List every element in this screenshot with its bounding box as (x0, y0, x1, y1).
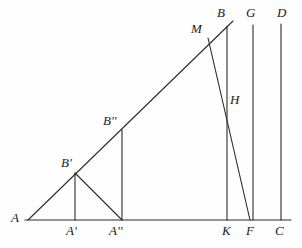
geometry-figure: A A' A'' K F C B' B'' M B G D H (0, 0, 302, 248)
diagonal-bprime-adoubleprime-segment (75, 173, 122, 220)
point-label-B-prime: B' (61, 156, 72, 169)
point-label-B-double-prime: B'' (103, 114, 117, 127)
point-label-A-double-prime: A'' (109, 224, 123, 237)
diagram-canvas (0, 0, 302, 248)
point-label-H: H (230, 93, 239, 106)
segment-m-h-f (208, 38, 250, 220)
point-label-G: G (246, 6, 255, 19)
point-label-K: K (222, 224, 231, 237)
point-label-B: B (217, 6, 225, 19)
hypotenuse-segment (28, 21, 233, 220)
point-label-A-prime: A' (66, 224, 77, 237)
point-label-D: D (277, 6, 286, 19)
point-label-A: A (11, 211, 19, 224)
point-label-C: C (275, 224, 284, 237)
point-label-M: M (191, 22, 202, 35)
point-label-F: F (246, 224, 254, 237)
